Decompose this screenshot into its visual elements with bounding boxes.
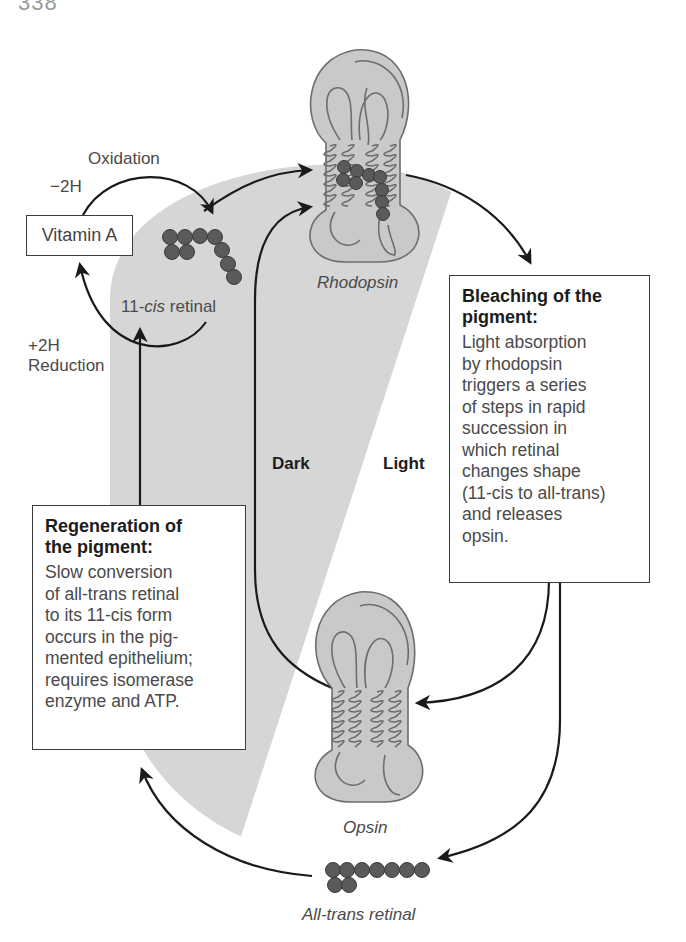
regeneration-info-box: Regeneration of the pigment: Slow conver… — [32, 505, 246, 750]
regeneration-title: Regeneration of the pigment: — [45, 516, 233, 558]
page-number: 338 — [18, 0, 58, 15]
regeneration-body: Slow conversion of all-trans retinal to … — [45, 562, 233, 713]
all-trans-prefix: All — [302, 905, 321, 924]
vitamin-a-label: Vitamin A — [42, 225, 118, 246]
minus-2h-label: −2H — [50, 177, 82, 197]
page-header-fragment: 338 — [18, 0, 58, 16]
cis-retinal-prefix: 11- — [121, 297, 144, 316]
rhodopsin-label: Rhodopsin — [317, 273, 398, 293]
oxidation-label: Oxidation — [88, 149, 160, 169]
plus-2h-label: +2H — [28, 336, 60, 356]
cis-retinal-suffix: retinal — [165, 297, 216, 316]
all-trans-retinal-molecule-icon — [326, 863, 430, 893]
box-to-opsin-arrow — [418, 580, 549, 703]
reduction-label: Reduction — [28, 356, 105, 376]
opsin-label: Opsin — [343, 818, 387, 838]
vitamin-a-box: Vitamin A — [26, 215, 133, 256]
visual-cycle-diagram: 338 Oxidation −2H Vitamin A 11-cis retin… — [0, 0, 686, 942]
all-trans-retinal-label: All-trans retinal — [302, 905, 415, 925]
bleaching-title: Bleaching of the pigment: — [462, 286, 637, 328]
bleaching-info-box: Bleaching of the pigment: Light absorpti… — [449, 275, 650, 583]
all-trans-suffix: -trans retinal — [321, 905, 415, 924]
bleaching-body: Light absorption by rhodopsin triggers a… — [462, 332, 637, 547]
box-to-all-trans-arrow — [440, 580, 560, 858]
rhodopsin-protein-icon — [310, 50, 419, 262]
cis-retinal-italic: cis — [144, 297, 165, 316]
light-label: Light — [383, 454, 425, 474]
opsin-protein-icon — [315, 592, 423, 802]
cis-retinal-label: 11-cis retinal — [121, 297, 216, 317]
dark-label: Dark — [272, 454, 310, 474]
